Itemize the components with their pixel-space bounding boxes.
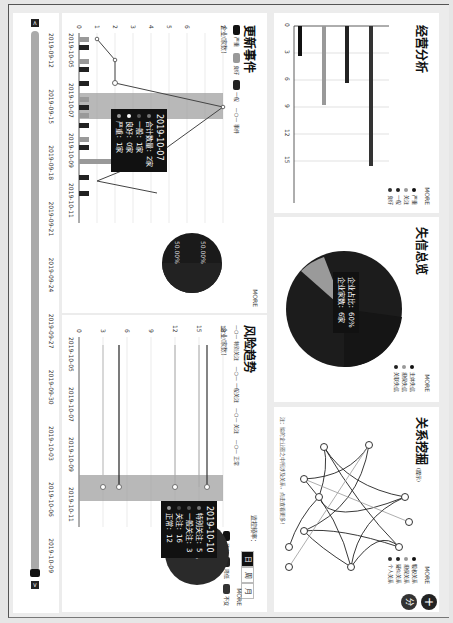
timeline-dates: 2019-09-12 2019-09-15 2019-09-18 2019-09… — [48, 33, 55, 573]
axis-tick: 3 — [130, 25, 137, 29]
risk-trend-chart[interactable] — [62, 315, 267, 612]
axis-tick: 12 — [172, 325, 179, 333]
timeline-right-arrow[interactable]: > — [31, 581, 39, 589]
timeline: 2019-09-12 2019-09-15 2019-09-18 2019-09… — [13, 13, 59, 613]
axis-tick: 1 — [94, 25, 101, 29]
axis-tick: 2019-10-09 — [68, 133, 75, 168]
axis-tick: 18 — [220, 325, 227, 333]
axis-tick: 2 — [112, 25, 119, 29]
axis-tick: 3 — [100, 329, 107, 333]
timeline-date: 2019-09-12 — [48, 33, 55, 68]
timeline-date: 2019-09-21 — [48, 201, 55, 236]
axis-tick: 2019-10-07 — [68, 83, 75, 118]
timeline-left-arrow[interactable]: < — [31, 19, 39, 27]
timeline-date: 2019-09-15 — [48, 89, 55, 124]
timeline-date: 2019-09-24 — [48, 258, 55, 293]
axis-tick: 0 — [284, 23, 291, 27]
timeline-date: 2019-10-03 — [48, 426, 55, 461]
pie-label: 50.00% — [174, 241, 181, 264]
axis-tick: 4 — [148, 25, 155, 29]
timeline-date: 2019-09-18 — [48, 145, 55, 180]
axis-tick: 7 — [220, 25, 227, 29]
panel-credit-overview: 失信总览 MORE 主体失信 担保失信 关联失信 企业占比：60% 企业家数：6… — [274, 217, 439, 402]
relation-graph[interactable] — [274, 407, 439, 612]
axis-tick: 2019-10-05 — [68, 337, 75, 372]
pie-label: 50.00% — [200, 241, 207, 264]
panel-risk-trend: 风险趋势 —○— 特别关注 —○— 一般关注 —○— 关注 —○— 正常 企业(… — [62, 315, 267, 612]
timeline-date: 2019-09-30 — [48, 370, 55, 405]
dashboard: 经营分析 MORE 严重 关注 一般 良好 0 3 6 9 1 — [0, 0, 453, 623]
axis-tick: 0 — [76, 25, 83, 29]
risk-tooltip: 2019-10-10 特别关注：5 一般关注：3 关注：16 正常：12 — [161, 501, 217, 558]
axis-tick: 9 — [284, 104, 291, 108]
axis-tick: 0 — [76, 329, 83, 333]
axis-tick: 3 — [284, 50, 291, 54]
axis-tick: 2019-10-05 — [68, 33, 75, 68]
timeline-date: 2019-09-27 — [48, 314, 55, 349]
axis-tick: 2019-10-11 — [68, 487, 75, 522]
bar-chart — [274, 13, 439, 213]
panel-update-events: 更新事件 严重 良好 一般 —○— 事件 企业(家数) MORE — [62, 13, 267, 313]
timeline-date: 2019-10-09 — [48, 538, 55, 573]
axis-tick: 2019-10-09 — [68, 437, 75, 472]
axis-tick: 9 — [148, 329, 155, 333]
relation-note: 注：協的企业圈之中所涉及关系，点击查看更多！ — [280, 417, 287, 527]
timeline-date: 2019-10-06 — [48, 482, 55, 517]
axis-tick: 5 — [166, 25, 173, 29]
panel-relation-mining: 关系挖掘(提示) MORE 股权关系 担保关系 疑似关系 个人关系 + 分 — [274, 407, 439, 612]
pie-tooltip: 企业占比：60% 企业家数：6家 — [333, 272, 359, 333]
axis-tick: 6 — [124, 329, 131, 333]
timeline-track[interactable] — [31, 31, 39, 571]
axis-tick: 2019-10-07 — [68, 387, 75, 422]
axis-tick: 15 — [284, 156, 291, 164]
panel-business-analysis: 经营分析 MORE 严重 关注 一般 良好 0 3 6 9 1 — [274, 13, 439, 213]
axis-tick: 6 — [184, 25, 191, 29]
axis-tick: 15 — [196, 325, 203, 333]
axis-tick: 2019-10-11 — [68, 183, 75, 218]
events-tooltip: 2019-10-07 合计数量：2家 一般：1家 良好：0家 严重：1家 — [111, 109, 167, 172]
timeline-handle[interactable] — [30, 569, 40, 577]
axis-tick: 12 — [284, 129, 291, 137]
dashboard-frame: 经营分析 MORE 严重 关注 一般 良好 0 3 6 9 1 — [8, 4, 449, 618]
axis-tick: 6 — [284, 77, 291, 81]
